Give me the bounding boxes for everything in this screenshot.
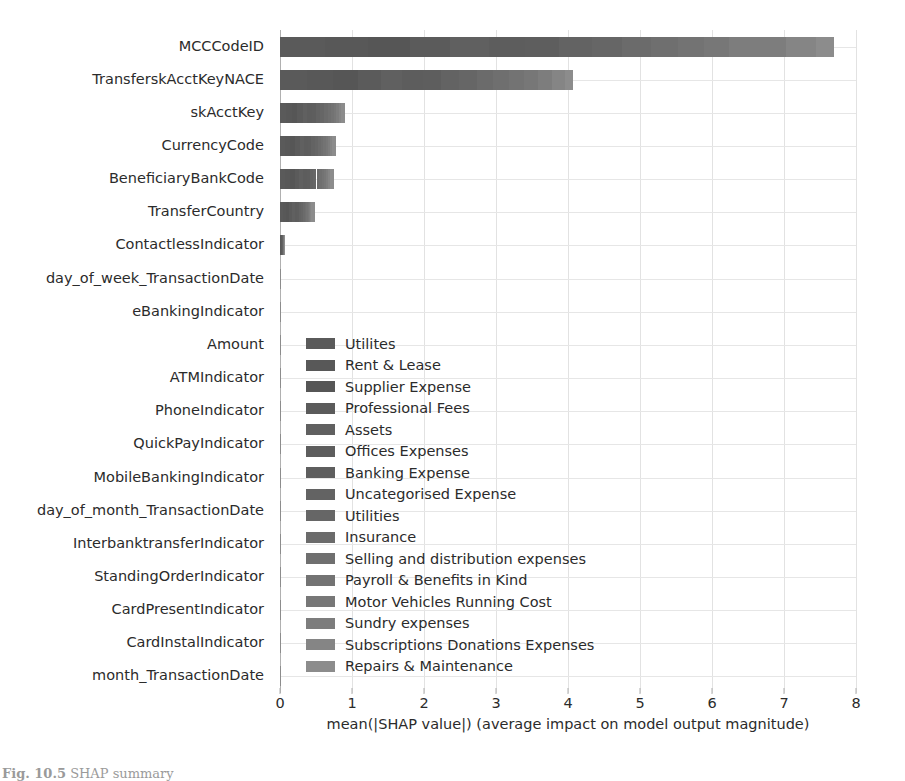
x-tick-label: 1	[347, 695, 356, 711]
bar-segment	[325, 37, 368, 57]
legend-item[interactable]: Insurance	[306, 527, 594, 549]
x-tick-mark	[424, 688, 425, 694]
figure-caption-label: Fig. 10.5	[2, 766, 66, 781]
legend-item[interactable]: Banking Expense	[306, 462, 594, 484]
legend-label: Assets	[345, 423, 392, 438]
legend-item[interactable]: Assets	[306, 419, 594, 441]
x-tick-mark	[856, 688, 857, 694]
y-tick-label: CardPresentIndicator	[0, 602, 272, 617]
bar-segment	[786, 37, 816, 57]
legend-swatch-icon	[306, 360, 335, 371]
legend-item[interactable]: Offices Expenses	[306, 441, 594, 463]
legend-label: Offices Expenses	[345, 444, 469, 459]
legend-item[interactable]: Professional Fees	[306, 398, 594, 420]
bar-segment	[450, 37, 489, 57]
y-tick-label: MCCCodeID	[0, 39, 272, 54]
x-tick-label: 2	[419, 695, 428, 711]
x-tick-mark	[352, 688, 353, 694]
y-tick-label: skAcctKey	[0, 105, 272, 120]
legend-item[interactable]: Sundry expenses	[306, 613, 594, 635]
legend-swatch-icon	[306, 446, 335, 457]
y-tick-label: MobileBankingIndicator	[0, 470, 272, 485]
bar-segment	[333, 70, 357, 90]
bar-segment	[651, 37, 678, 57]
legend-item[interactable]: Utilites	[306, 333, 594, 355]
bar-segment	[538, 70, 552, 90]
bar-row	[280, 202, 856, 222]
bar-segment	[559, 37, 591, 57]
bar-segment	[493, 70, 509, 90]
y-tick-label: Amount	[0, 337, 272, 352]
legend-swatch-icon	[306, 596, 335, 607]
bar-segment	[622, 37, 651, 57]
y-axis-labels: MCCCodeIDTransferskAcctKeyNACEskAcctKeyC…	[0, 30, 272, 693]
legend-label: Rent & Lease	[345, 358, 441, 373]
x-tick-label: 5	[635, 695, 644, 711]
legend-label: Insurance	[345, 530, 416, 545]
legend-label: Selling and distribution expenses	[345, 552, 586, 567]
x-tick-mark	[280, 688, 281, 694]
bar-row	[280, 136, 856, 156]
x-tick-label: 6	[707, 695, 716, 711]
legend-label: Repairs & Maintenance	[345, 659, 513, 674]
legend-swatch-icon	[306, 489, 335, 500]
bar-row	[280, 302, 856, 322]
legend-swatch-icon	[306, 424, 335, 435]
legend-item[interactable]: Rent & Lease	[306, 355, 594, 377]
legend-item[interactable]: Selling and distribution expenses	[306, 548, 594, 570]
legend-label: Utilites	[345, 337, 396, 352]
legend-swatch-icon	[306, 510, 335, 521]
legend-label: Uncategorised Expense	[345, 487, 516, 502]
bar-segment	[402, 70, 422, 90]
legend-swatch-icon	[306, 532, 335, 543]
x-tick-label: 7	[779, 695, 788, 711]
bar-segment	[704, 37, 728, 57]
bar-segment	[358, 70, 381, 90]
x-tick-label: 4	[563, 695, 572, 711]
y-tick-label: day_of_week_TransactionDate	[0, 271, 272, 286]
bar-segment	[525, 37, 560, 57]
y-tick-label: TransferskAcctKeyNACE	[0, 72, 272, 87]
y-tick-label: InterbanktransferIndicator	[0, 536, 272, 551]
y-tick-label: day_of_month_TransactionDate	[0, 503, 272, 518]
bar-segment	[280, 70, 307, 90]
legend-label: Payroll & Benefits in Kind	[345, 573, 527, 588]
bar-segment	[509, 70, 524, 90]
bar-row	[280, 269, 856, 289]
bar-segment	[592, 37, 622, 57]
x-axis-label: mean(|SHAP value|) (average impact on mo…	[280, 716, 856, 732]
y-tick-label: ATMIndicator	[0, 370, 272, 385]
legend-item[interactable]: Uncategorised Expense	[306, 484, 594, 506]
bar-segment	[489, 37, 525, 57]
y-tick-label: BeneficiaryBankCode	[0, 171, 272, 186]
legend-item[interactable]: Subscriptions Donations Expenses	[306, 634, 594, 656]
bar-row	[280, 70, 856, 90]
bar-segment	[477, 70, 494, 90]
y-tick-label: PhoneIndicator	[0, 403, 272, 418]
bar-row	[280, 235, 856, 255]
legend-item[interactable]: Supplier Expense	[306, 376, 594, 398]
bar-segment	[410, 37, 450, 57]
x-tick-mark	[640, 688, 641, 694]
y-tick-label: ContactlessIndicator	[0, 237, 272, 252]
bar-segment	[459, 70, 476, 90]
bar-segment	[368, 37, 410, 57]
legend-item[interactable]: Payroll & Benefits in Kind	[306, 570, 594, 592]
gridline-vertical	[856, 30, 857, 693]
bar-segment	[332, 136, 336, 156]
bar-segment	[330, 169, 333, 189]
bar-segment	[381, 70, 403, 90]
legend-swatch-icon	[306, 467, 335, 478]
legend-item[interactable]: Motor Vehicles Running Cost	[306, 591, 594, 613]
legend-label: Sundry expenses	[345, 616, 470, 631]
bar-row	[280, 103, 856, 123]
legend-item[interactable]: Repairs & Maintenance	[306, 656, 594, 678]
x-tick-label: 0	[275, 695, 284, 711]
x-tick-mark	[496, 688, 497, 694]
legend-item[interactable]: Utilities	[306, 505, 594, 527]
y-tick-label: CardInstalIndicator	[0, 635, 272, 650]
legend-swatch-icon	[306, 618, 335, 629]
bar-segment	[524, 70, 538, 90]
bar-segment	[441, 70, 459, 90]
x-tick-mark	[784, 688, 785, 694]
